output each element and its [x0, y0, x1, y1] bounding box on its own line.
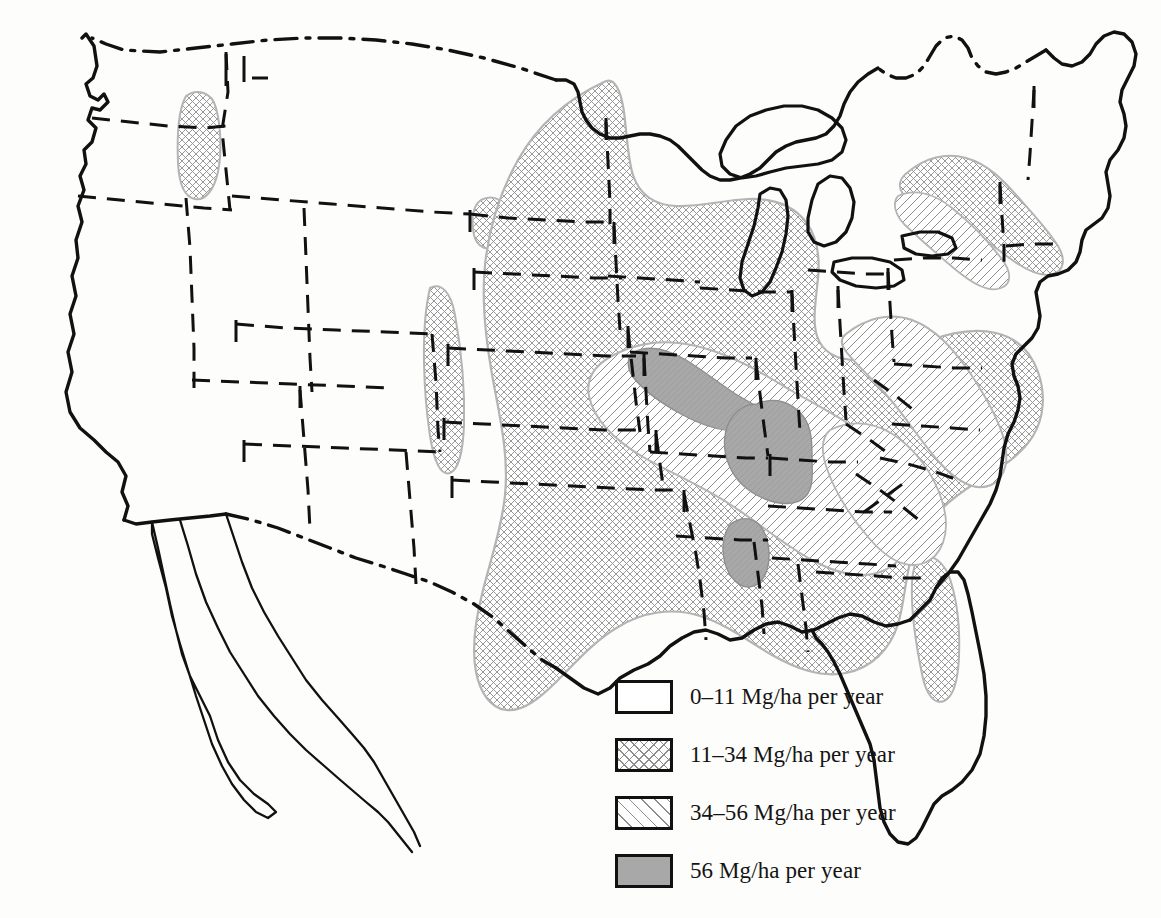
- legend-label-3: 56 Mg/ha per year: [690, 858, 861, 884]
- border-mi-oh: [808, 270, 886, 274]
- northern-border-east: [878, 36, 1046, 78]
- border-wy-co: [236, 324, 432, 334]
- pacific-coastline: [66, 34, 128, 520]
- border-nm-tx: [406, 452, 416, 584]
- baja-inner-coast: [226, 514, 420, 846]
- border-az-nm: [300, 390, 310, 530]
- map-legend: 0–11 Mg/ha per year 11–34 Mg/ha per year…: [615, 668, 1035, 900]
- legend-swatch-crosshatch: [615, 738, 673, 772]
- border-mt-wy: [232, 196, 470, 214]
- map-root: 0–11 Mg/ha per year 11–34 Mg/ha per year…: [0, 0, 1161, 918]
- border-nv-ut: [186, 198, 194, 388]
- region-northern-idaho-patch: [178, 92, 221, 199]
- border-co-nm: [244, 444, 440, 452]
- gulf-of-california: [180, 520, 412, 852]
- lake-huron: [808, 176, 854, 246]
- region-front-range-strip: [424, 286, 464, 473]
- legend-label-2: 34–56 Mg/ha per year: [690, 800, 896, 826]
- legend-item-2[interactable]: 34–56 Mg/ha per year: [615, 784, 1035, 842]
- baja-peninsula: [152, 522, 276, 818]
- legend-label-1: 11–34 Mg/ha per year: [690, 742, 895, 768]
- border-or-nv-id: [78, 196, 232, 210]
- atlantic-coastline: [936, 32, 1136, 588]
- legend-swatch-hatch: [615, 796, 673, 830]
- border-ut-az: [192, 380, 392, 388]
- border-ut-co: [304, 208, 312, 392]
- legend-swatch-blank: [615, 680, 673, 714]
- legend-label-0: 0–11 Mg/ha per year: [690, 684, 883, 710]
- legend-item-0[interactable]: 0–11 Mg/ha per year: [615, 668, 1035, 726]
- legend-item-3[interactable]: 56 Mg/ha per year: [615, 842, 1035, 900]
- northern-border-west: [92, 38, 556, 80]
- legend-swatch-solid: [615, 854, 673, 888]
- border-pa-ny: [894, 258, 982, 260]
- legend-item-1[interactable]: 11–34 Mg/ha per year: [615, 726, 1035, 784]
- lake-superior: [720, 106, 846, 178]
- southern-border-california: [124, 514, 226, 524]
